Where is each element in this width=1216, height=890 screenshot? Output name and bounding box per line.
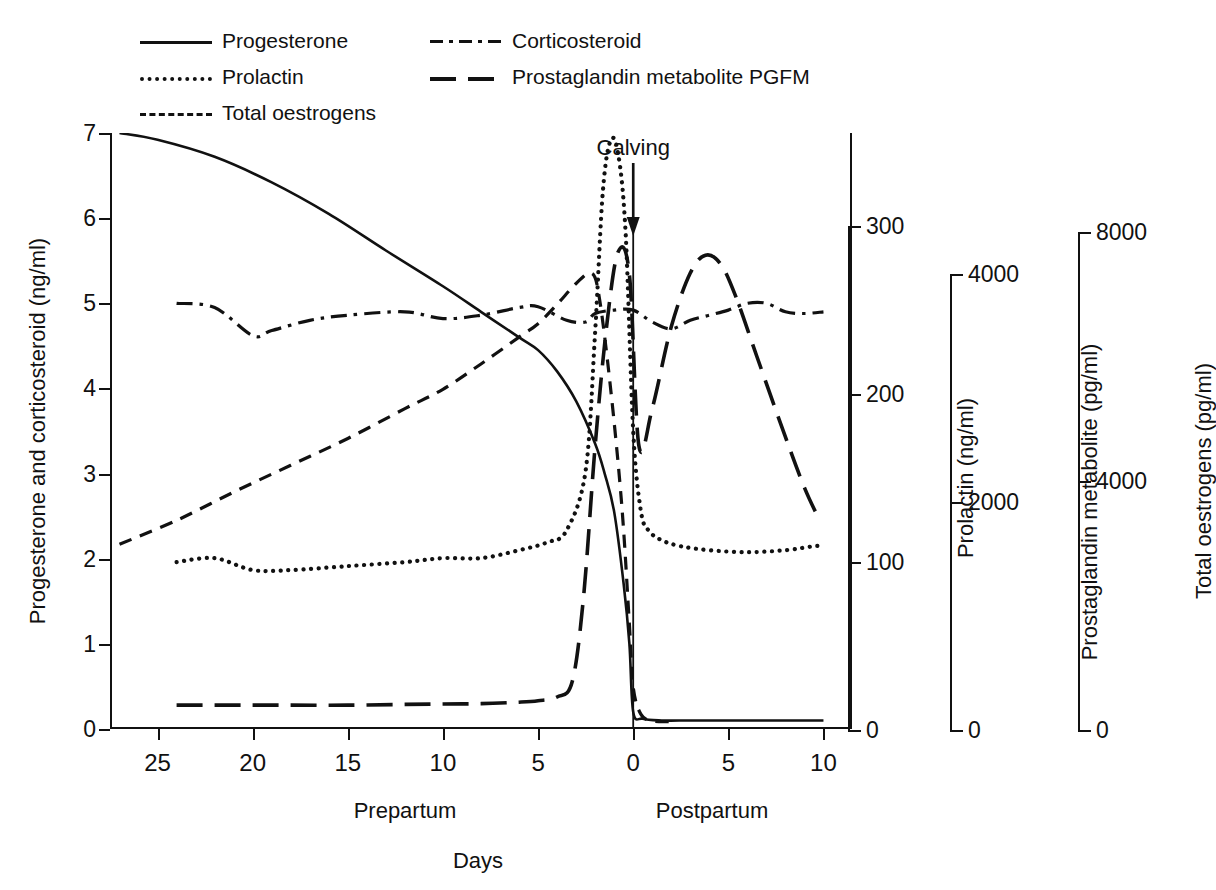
series-line-prolactin	[177, 138, 824, 571]
plot-canvas	[110, 133, 852, 729]
series-line-total-oestrogens	[120, 273, 672, 722]
left-axis-tick-mark	[99, 218, 110, 220]
left-axis-tick-label: 2	[56, 547, 96, 570]
legend-label: Prostaglandin metabolite PGFM	[512, 66, 810, 87]
x-axis-tick-label: 0	[627, 751, 640, 775]
oestrogens-axis: 040008000Total oestrogens (pg/ml)	[1078, 232, 1088, 730]
caption-postpartum: Postpartum	[656, 800, 769, 822]
legend-item-total-oestrogens: Total oestrogens	[140, 102, 376, 123]
caption-prepartum: Prepartum	[354, 800, 457, 822]
prolactin-axis-tick-mark	[848, 394, 861, 396]
oestrogens-axis-tick-mark	[1078, 232, 1091, 234]
left-axis-tick-mark	[99, 388, 110, 390]
pgfm-axis-tick-label: 0	[968, 719, 981, 742]
pgfm-axis-tick-mark	[950, 274, 963, 276]
left-axis-tick-mark	[99, 474, 110, 476]
oestrogens-axis-tick-mark	[1078, 730, 1091, 732]
prolactin-axis-tick-label: 300	[866, 215, 904, 238]
left-axis-tick-label: 0	[56, 718, 96, 741]
left-axis-title: Progesterone and corticosteroid (ng/ml)	[27, 238, 49, 624]
x-axis-title: Days	[453, 850, 503, 872]
x-axis-tick-label: 10	[810, 751, 837, 775]
left-axis-tick-label: 5	[56, 292, 96, 315]
x-axis-tick-label: 5	[531, 751, 544, 775]
pgfm-axis-tick-mark	[950, 502, 963, 504]
legend-item-pgfm: Prostaglandin metabolite PGFM	[430, 66, 810, 87]
legend-label: Progesterone	[222, 30, 348, 51]
x-axis-tick-mark	[443, 729, 445, 740]
prolactin-axis: 0100200300Prolactin (ng/ml)	[848, 226, 858, 730]
x-axis-tick-mark	[158, 729, 160, 740]
x-axis-tick-label: 15	[334, 751, 361, 775]
legend-item-progesterone: Progesterone	[140, 30, 348, 51]
series-line-prostaglandin-metabolite-pgfm	[177, 247, 820, 705]
x-axis-tick-mark	[823, 729, 825, 740]
series-layer	[120, 133, 824, 722]
legend-label: Prolactin	[222, 66, 304, 87]
left-axis-tick-label: 1	[56, 632, 96, 655]
x-axis-tick-label: 10	[430, 751, 457, 775]
left-axis-tick-label: 7	[56, 122, 96, 145]
legend-item-prolactin: Prolactin	[140, 66, 304, 87]
series-line-corticosteroid	[177, 302, 824, 337]
x-axis-tick-mark	[538, 729, 540, 740]
prolactin-axis-tick-mark	[848, 730, 861, 732]
pgfm-axis-tick-label: 2000	[968, 491, 1019, 514]
prolactin-axis-tick-mark	[848, 562, 861, 564]
oestrogens-axis-tick-mark	[1078, 481, 1091, 483]
pgfm-axis-tick-label: 4000	[968, 263, 1019, 286]
legend-item-corticosteroid: Corticosteroid	[430, 30, 642, 51]
oestrogens-axis-tick-label: 4000	[1096, 470, 1147, 493]
prolactin-axis-tick-label: 100	[866, 551, 904, 574]
left-axis-tick-mark	[99, 644, 110, 646]
x-axis-tick-mark	[728, 729, 730, 740]
left-axis-tick-label: 4	[56, 377, 96, 400]
x-axis-tick-mark	[253, 729, 255, 740]
left-axis-tick-mark	[99, 133, 110, 135]
prolactin-axis-tick-mark	[848, 226, 861, 228]
legend-label: Corticosteroid	[512, 30, 642, 51]
x-axis-tick-mark	[633, 729, 635, 740]
left-axis-tick-label: 3	[56, 462, 96, 485]
pgfm-axis-tick-mark	[950, 730, 963, 732]
x-axis-tick-mark	[348, 729, 350, 740]
series-line-progesterone	[120, 133, 824, 721]
x-axis-tick-label: 25	[144, 751, 171, 775]
oestrogens-axis-tick-label: 8000	[1096, 221, 1147, 244]
left-axis-tick-label: 6	[56, 207, 96, 230]
prolactin-axis-tick-label: 0	[866, 719, 879, 742]
oestrogens-axis-title: Total oestrogens (pg/ml)	[1193, 363, 1215, 599]
chart-legend: Progesterone Prolactin Total oestrogens …	[140, 24, 900, 128]
prolactin-axis-tick-label: 200	[866, 383, 904, 406]
plot-area: Calving 01234567 2520151050510 Progester…	[110, 133, 852, 729]
prolactin-axis-line	[848, 226, 850, 730]
x-axis-tick-label: 5	[722, 751, 735, 775]
left-axis-tick-mark	[99, 303, 110, 305]
x-axis-tick-label: 20	[239, 751, 266, 775]
left-axis-tick-mark	[99, 559, 110, 561]
pgfm-axis: 020004000Prostaglandin metabolite (pg/ml…	[950, 274, 960, 730]
line-style-dash-dot-icon	[430, 39, 502, 43]
legend-label: Total oestrogens	[222, 102, 376, 123]
left-axis-tick-mark	[99, 729, 110, 731]
oestrogens-axis-tick-label: 0	[1096, 719, 1109, 742]
